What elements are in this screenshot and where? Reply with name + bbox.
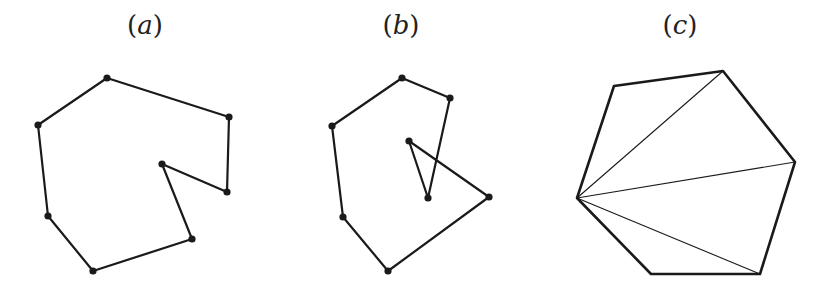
vertex-dot bbox=[405, 137, 412, 144]
vertex-dot bbox=[89, 267, 96, 274]
polygon-a bbox=[34, 74, 232, 274]
vertex-dot bbox=[103, 74, 110, 81]
vertex-dot bbox=[34, 121, 41, 128]
triangulation-diagonal bbox=[577, 162, 795, 198]
triangulation-diagonal bbox=[577, 198, 760, 274]
vertex-dot bbox=[225, 113, 232, 120]
vertex-dot bbox=[339, 213, 346, 220]
vertex-dot bbox=[188, 235, 195, 242]
vertex-dot bbox=[398, 74, 405, 81]
vertex-dot bbox=[424, 194, 431, 201]
vertex-dot bbox=[485, 193, 492, 200]
diagram-canvas bbox=[0, 0, 820, 292]
hexagon-c-triangulated bbox=[577, 71, 795, 274]
polygon-b-self-intersecting bbox=[328, 74, 492, 274]
vertex-dot bbox=[384, 267, 391, 274]
polygon-edges bbox=[332, 78, 489, 271]
vertex-dot bbox=[158, 160, 165, 167]
polygon-edges bbox=[38, 78, 229, 271]
vertex-dot bbox=[223, 188, 230, 195]
vertex-dot bbox=[328, 122, 335, 129]
vertex-dot bbox=[44, 212, 51, 219]
vertex-dot bbox=[446, 94, 453, 101]
